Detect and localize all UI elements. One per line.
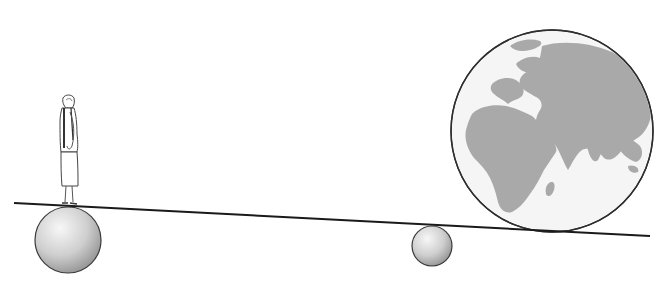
left-sphere — [35, 207, 101, 273]
fulcrum-sphere — [412, 226, 452, 266]
lever-illustration — [0, 0, 671, 286]
standing-person — [60, 95, 78, 204]
earth-globe — [451, 30, 653, 232]
